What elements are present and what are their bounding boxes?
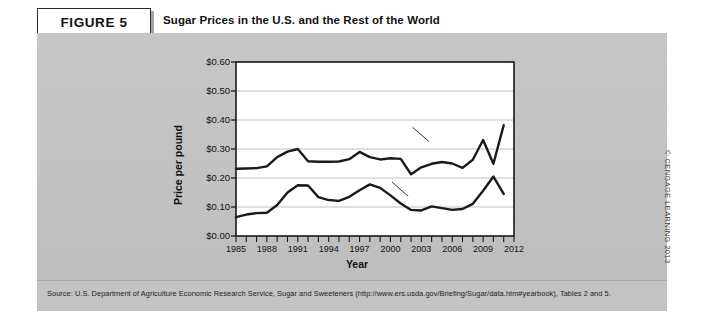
figure-title: Sugar Prices in the U.S. and the Rest of… [163, 14, 440, 26]
copyright-notice: © CENGAGE LEARNING 2013 [663, 150, 672, 264]
figure-panel [37, 33, 667, 280]
figure-number-badge: FIGURE 5 [37, 8, 151, 36]
source-note: Source: U.S. Department of Agriculture E… [47, 289, 611, 298]
panel-shading [37, 33, 667, 280]
figure-root: FIGURE 5 Sugar Prices in the U.S. and th… [0, 0, 706, 327]
source-band: Source: U.S. Department of Agriculture E… [37, 280, 667, 311]
